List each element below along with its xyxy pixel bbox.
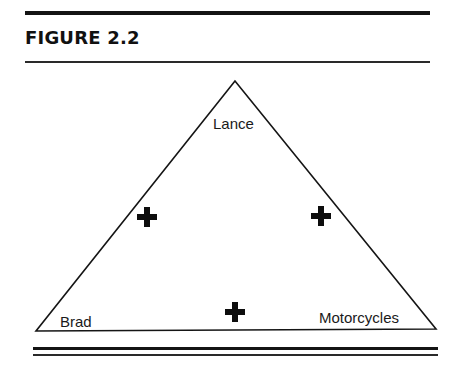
node-label-bottom-right: Motorcycles (319, 310, 399, 325)
plus-icon (137, 207, 157, 227)
bottom-thin-rule (33, 354, 438, 356)
node-label-top: Lance (213, 116, 254, 131)
bottom-heavy-rule (33, 347, 438, 350)
plus-icon (311, 206, 331, 226)
node-label-bottom-left: Brad (60, 314, 92, 329)
plus-icon (225, 302, 245, 322)
